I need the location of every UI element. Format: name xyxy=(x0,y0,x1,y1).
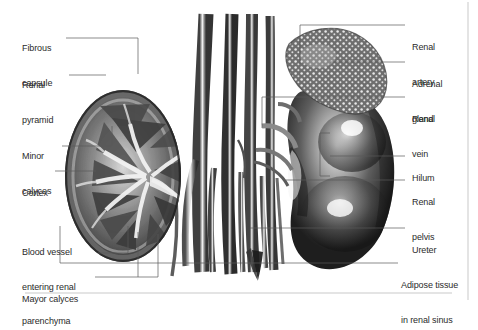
label-renal-vein-line1: Renal xyxy=(412,114,435,126)
label-mayor-calyces-line1: Mayor calyces xyxy=(22,294,78,306)
label-renal-artery-line1: Renal xyxy=(412,42,435,54)
leader-fibrous-capsule xyxy=(66,38,138,74)
label-minor-calyces-line1: Minor xyxy=(22,151,51,163)
label-fibrous-capsule-line1: Fibrous xyxy=(22,43,52,55)
label-renal-pyramid-line1: Renal xyxy=(22,80,53,92)
label-adipose-tissue-line1: Adipose tissue xyxy=(401,280,458,292)
label-adipose-tissue-line2: in renal sinus xyxy=(401,315,458,327)
label-renal-pelvis-line1: Renal xyxy=(412,197,435,209)
label-adipose-tissue: Adipose tissue in renal sinus xyxy=(401,257,458,330)
label-cortex: Cortex xyxy=(22,165,48,223)
left-kidney-section xyxy=(65,90,188,262)
great-vessels xyxy=(172,14,283,281)
label-cortex-line1: Cortex xyxy=(22,188,48,200)
label-mayor-calyces: Mayor calyces xyxy=(22,271,78,329)
label-blood-vessel-line1: Blood vessel xyxy=(22,247,76,259)
right-kidney-external xyxy=(288,87,395,269)
illustration-art xyxy=(65,14,394,281)
label-adrenal-gland-line1: Adrenal xyxy=(412,79,442,91)
label-ureter-line1: Ureter xyxy=(412,245,436,257)
label-renal-pyramid-line2: pyramid xyxy=(22,115,53,127)
